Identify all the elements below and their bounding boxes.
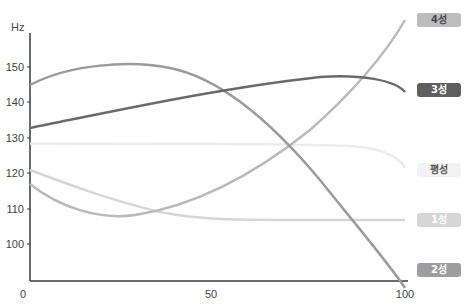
x-tick-50: 50 (205, 288, 217, 300)
y-tick-100: 100 (6, 238, 24, 250)
y-tick-130: 130 (6, 132, 24, 144)
label-tone2: 2성 (417, 263, 461, 277)
y-ticks: 150 140 130 120 110 100 (6, 61, 30, 250)
y-tick-150: 150 (6, 61, 24, 73)
y-tick-120: 120 (6, 167, 24, 179)
label-tone4: 4성 (417, 13, 461, 27)
label-tone3: 3성 (417, 83, 461, 97)
x-ticks: 0 50 100 (20, 288, 414, 300)
x-tick-0: 0 (20, 288, 26, 300)
label-level-tone: 평성 (417, 163, 461, 177)
y-tick-110: 110 (6, 203, 24, 215)
label-tone1: 1성 (417, 213, 461, 227)
y-tick-140: 140 (6, 96, 24, 108)
series-tone2 (30, 64, 405, 288)
series-tone4 (30, 20, 405, 216)
series-tone3 (30, 76, 405, 128)
x-tick-100: 100 (396, 288, 414, 300)
series-level-tone (30, 144, 405, 169)
y-unit-label: Hz (11, 21, 24, 33)
pitch-contour-chart: Hz 150 140 130 120 110 100 0 50 100 (0, 0, 467, 306)
